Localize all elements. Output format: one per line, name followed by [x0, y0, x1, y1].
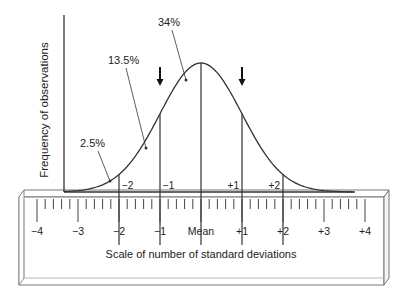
curve-sd-label: −1: [163, 180, 175, 191]
percent-label-13-5: 13.5%: [108, 54, 139, 66]
ruler-right-bevel: [384, 190, 389, 285]
x-axis-label: Scale of number of standard deviations: [106, 248, 297, 260]
curve-sd-label: +1: [228, 180, 240, 191]
percent-label-34: 34%: [158, 16, 180, 28]
ruler-label: −3: [72, 225, 84, 237]
leader-dot-34: [185, 79, 188, 82]
down-arrow-icon: [239, 67, 246, 86]
leader-line-13-5: [126, 68, 146, 148]
ruler-label: +4: [359, 225, 371, 237]
curve-sd-label: −2: [122, 180, 134, 191]
leader-line-2-5: [98, 151, 110, 181]
arrow-head: [157, 79, 164, 86]
percent-label-2-5: 2.5%: [80, 137, 105, 149]
ruler-label: −4: [31, 225, 43, 237]
y-axis-label: Frequency of observations: [38, 42, 50, 178]
leader-dot-2-5: [109, 180, 112, 183]
leader-dot-13-5: [145, 147, 148, 150]
leader-line-34: [172, 30, 186, 80]
down-arrow-icon: [157, 67, 164, 86]
arrow-head: [239, 79, 246, 86]
ruler-label: +3: [318, 225, 330, 237]
ruler: −4−3−2−1Mean+1+2+3+4: [19, 190, 389, 285]
curve-sd-label: +2: [269, 180, 281, 191]
normal-distribution-diagram: −4−3−2−1Mean+1+2+3+4 Frequency of observ…: [0, 0, 408, 292]
ruler-left-bevel: [19, 190, 24, 285]
